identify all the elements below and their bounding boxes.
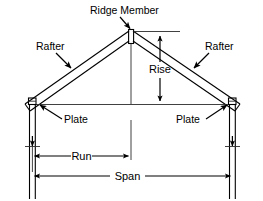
ridge-member: [129, 30, 134, 105]
rafter-left-leader: [56, 53, 71, 68]
plate-left-leader: [40, 105, 62, 119]
run-label: Run: [71, 150, 91, 162]
ridge-member-label: Ridge Member: [90, 4, 159, 16]
wall-stud-right: [230, 105, 236, 200]
plate-right-label: Plate: [176, 113, 200, 125]
plate-right-leader: [206, 105, 227, 119]
ridge-member-leader: [120, 17, 130, 29]
rafter-right-leader: [194, 53, 209, 68]
roof-diagram-canvas: Rise Run Span Ridge Member: [0, 0, 263, 201]
dimension-span: Span: [35, 136, 241, 182]
dimension-rise: Rise: [149, 36, 171, 101]
rafter-right-label: Rafter: [205, 40, 234, 52]
span-label: Span: [115, 170, 141, 182]
roof-framing-diagram: Rise Run Span Ridge Member: [0, 0, 263, 201]
rafter-left-label: Rafter: [36, 40, 65, 52]
rise-label: Rise: [149, 63, 171, 75]
dimension-run: Run: [25, 120, 131, 172]
plate-left-label: Plate: [64, 113, 88, 125]
